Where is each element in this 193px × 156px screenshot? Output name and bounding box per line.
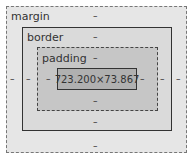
content-box: 723.200×73.867 xyxy=(57,68,137,90)
border-top-value[interactable]: – xyxy=(93,33,98,42)
border-left-value[interactable]: – xyxy=(26,75,31,84)
padding-bottom-value[interactable]: – xyxy=(93,97,98,106)
margin-top-value[interactable]: – xyxy=(93,12,98,21)
border-right-value[interactable]: – xyxy=(160,75,165,84)
margin-label: margin xyxy=(11,11,50,22)
border-label: border xyxy=(27,32,63,43)
padding-top-value[interactable]: – xyxy=(93,54,98,63)
margin-right-value[interactable]: – xyxy=(176,75,181,84)
margin-bottom-value[interactable]: – xyxy=(93,142,98,151)
padding-right-value[interactable]: – xyxy=(140,75,145,84)
content-size: 723.200×73.867 xyxy=(55,74,140,85)
padding-left-value[interactable]: – xyxy=(46,75,51,84)
padding-label: padding xyxy=(42,53,87,64)
margin-left-value[interactable]: – xyxy=(10,75,15,84)
border-bottom-value[interactable]: – xyxy=(93,118,98,127)
